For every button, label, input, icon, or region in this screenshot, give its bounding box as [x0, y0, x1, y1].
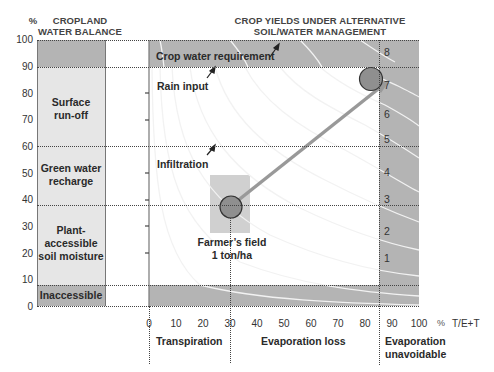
improvement-arrow	[236, 86, 382, 202]
gridline-60	[37, 146, 379, 147]
x-tick-70: 70	[326, 318, 350, 329]
vline-0	[149, 306, 150, 364]
label-crop-water-requirement: Crop water requirement	[156, 50, 274, 63]
evap-unavoidable-line1: Evaporation	[385, 335, 446, 348]
label-rain-input: Rain input	[157, 80, 208, 93]
x-tick-20: 20	[191, 318, 215, 329]
yield-label-4: 4	[380, 166, 394, 178]
x-axis-label: T/E+T	[452, 318, 480, 329]
x-tick-100: 100	[407, 318, 431, 329]
x-unit-label: %	[437, 318, 445, 328]
gridline-38	[37, 205, 419, 206]
x-tick-10: 10	[164, 318, 188, 329]
gridline-60-right	[379, 146, 419, 147]
x-tick-30: 30	[218, 318, 242, 329]
x-tick-90: 90	[380, 318, 404, 329]
gridline-90	[37, 67, 419, 68]
yield-label-3: 3	[380, 193, 394, 205]
x-tick-60: 60	[299, 318, 323, 329]
farmers-field-line1: Farmer’s field	[186, 236, 278, 249]
yield-label-8: 8	[380, 46, 394, 58]
yield-label-2: 2	[380, 225, 394, 237]
x-tick-50: 50	[272, 318, 296, 329]
gridline-100	[37, 40, 419, 41]
evap-unavoidable-line2: unavoidable	[385, 348, 446, 361]
yield-label-7: 7	[380, 79, 394, 91]
yield-label-6: 6	[380, 108, 394, 120]
farmers-field-line2: 1 ton/ha	[186, 249, 278, 262]
label-infiltration: Infiltration	[157, 158, 208, 171]
label-evaporation-unavoidable: Evaporation unavoidable	[385, 335, 446, 361]
label-transpiration: Transpiration	[156, 335, 223, 348]
yield-label-5: 5	[380, 133, 394, 145]
x-tick-40: 40	[245, 318, 269, 329]
gridline-8	[37, 285, 419, 286]
label-evaporation-loss: Evaporation loss	[261, 335, 346, 348]
label-farmers-field: Farmer’s field 1 ton/ha	[186, 236, 278, 262]
farmers-field-point	[220, 196, 242, 218]
gridline-0	[37, 306, 419, 307]
yield-label-1: 1	[380, 252, 394, 264]
x-tick-80: 80	[353, 318, 377, 329]
x-tick-0: 0	[137, 318, 161, 329]
